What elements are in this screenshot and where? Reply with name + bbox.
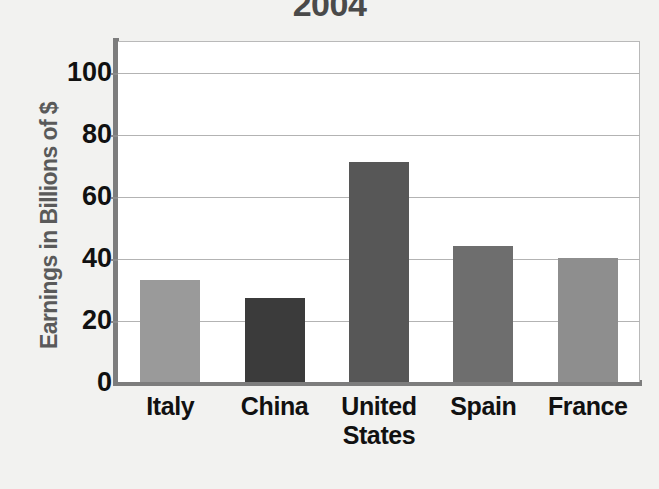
y-axis-tick-label: 20	[46, 307, 112, 334]
x-axis-tick-label: Italy	[118, 392, 222, 421]
x-axis-tick-label: China	[222, 392, 326, 421]
x-axis-tick-label: France	[536, 392, 640, 421]
bar-united-states[interactable]	[349, 162, 409, 382]
x-axis-tick-labels: ItalyChinaUnited StatesSpainFrance	[118, 392, 640, 487]
y-axis-tickmark	[111, 73, 118, 75]
bar-china[interactable]	[245, 298, 305, 382]
y-axis-tickmark	[111, 259, 118, 261]
x-axis-tick-label: United States	[327, 392, 431, 450]
y-axis-tickmark	[111, 135, 118, 137]
y-axis-tick-label: 100	[46, 59, 112, 86]
y-axis-tick-label: 80	[46, 121, 112, 148]
y-axis-tick-label: 60	[46, 183, 112, 210]
y-axis-tick-label: 0	[46, 369, 112, 396]
y-axis-tickmark	[111, 321, 118, 323]
chart-page: 2004 Earnings in Billions of $ 020406080…	[0, 0, 659, 489]
y-axis-tick-label: 40	[46, 245, 112, 272]
y-axis-tick-labels: 020406080100	[46, 40, 112, 385]
bar-italy[interactable]	[140, 280, 200, 382]
gridline	[118, 135, 640, 136]
gridline	[118, 73, 640, 74]
chart-title: 2004	[0, 0, 659, 24]
bar-france[interactable]	[558, 258, 618, 382]
x-axis-tick-label: Spain	[431, 392, 535, 421]
y-axis-tickmark	[111, 197, 118, 199]
plot-area	[118, 41, 640, 382]
bar-spain[interactable]	[453, 246, 513, 382]
